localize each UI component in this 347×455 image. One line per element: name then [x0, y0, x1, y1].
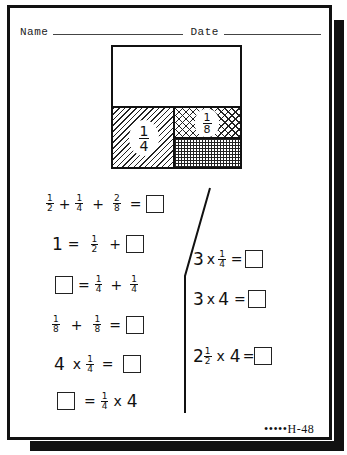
- frame-shadow-bottom: [30, 441, 344, 451]
- answer-box[interactable]: [248, 290, 266, 308]
- page-code: •••••H-48: [264, 422, 314, 437]
- answer-box[interactable]: [245, 250, 263, 268]
- problem-4: 18 + 18 =: [52, 315, 144, 334]
- problem-5: 4 x 14 =: [54, 354, 141, 374]
- problem-1: 12 + 14 + 28 =: [46, 194, 164, 213]
- problem-2: 1 = 12 +: [52, 234, 144, 254]
- answer-box[interactable]: [254, 347, 272, 365]
- problem-6: = 14 x 4: [57, 391, 138, 411]
- answer-box[interactable]: [126, 235, 144, 253]
- answer-box[interactable]: [123, 355, 141, 373]
- problem-9: 2 12 x 4 =: [193, 346, 272, 366]
- answer-box[interactable]: [146, 195, 164, 213]
- answer-box[interactable]: [55, 276, 73, 294]
- problem-7: 3 x 14 =: [193, 249, 263, 269]
- answer-box[interactable]: [57, 392, 75, 410]
- frame-shadow-right: [334, 20, 344, 451]
- worksheet-frame: Name Date 1 4 1 8 12 +: [7, 5, 332, 440]
- answer-box[interactable]: [126, 316, 144, 334]
- problem-3: = 14 + 14: [55, 275, 138, 294]
- problem-8: 3 x 4 =: [193, 289, 266, 309]
